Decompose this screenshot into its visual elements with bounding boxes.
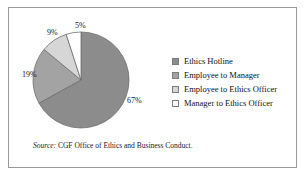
legend-item-employee-to-manager: Employee to Manager bbox=[172, 69, 296, 82]
chart-figure-frame: 67% 19% 9% 5% Ethics Hotline Employee to… bbox=[8, 7, 297, 168]
pie-slice-label-employee-to-manager: 19% bbox=[22, 71, 37, 79]
pie-slice-label-employee-to-ethics-officer: 9% bbox=[47, 29, 58, 37]
legend-item-employee-to-ethics-officer: Employee to Ethics Officer bbox=[172, 83, 296, 96]
pie-slice-label-ethics-hotline: 67% bbox=[127, 97, 142, 105]
pie-chart: 67% 19% 9% 5% bbox=[9, 8, 171, 138]
legend-swatch-icon-manager-to-ethics-officer bbox=[172, 100, 179, 107]
legend-swatch-icon-ethics-hotline bbox=[172, 58, 179, 65]
legend-swatch-icon-employee-to-manager bbox=[172, 72, 179, 79]
legend-label-manager-to-ethics-officer: Manager to Ethics Officer bbox=[184, 99, 273, 108]
pie-slice-group bbox=[33, 32, 129, 128]
legend-label-ethics-hotline: Ethics Hotline bbox=[184, 57, 233, 66]
chart-legend: Ethics Hotline Employee to Manager Emplo… bbox=[172, 55, 296, 111]
legend-label-employee-to-manager: Employee to Manager bbox=[184, 71, 260, 80]
legend-label-employee-to-ethics-officer: Employee to Ethics Officer bbox=[184, 85, 277, 94]
pie-slice-label-manager-to-ethics-officer: 5% bbox=[75, 22, 86, 30]
source-note: Source: CGF Office of Ethics and Busines… bbox=[33, 142, 193, 150]
legend-swatch-icon-employee-to-ethics-officer bbox=[172, 86, 179, 93]
source-note-text: CGF Office of Ethics and Business Conduc… bbox=[58, 141, 193, 150]
source-note-label: Source: bbox=[33, 141, 56, 150]
legend-item-manager-to-ethics-officer: Manager to Ethics Officer bbox=[172, 97, 296, 110]
legend-item-ethics-hotline: Ethics Hotline bbox=[172, 55, 296, 68]
